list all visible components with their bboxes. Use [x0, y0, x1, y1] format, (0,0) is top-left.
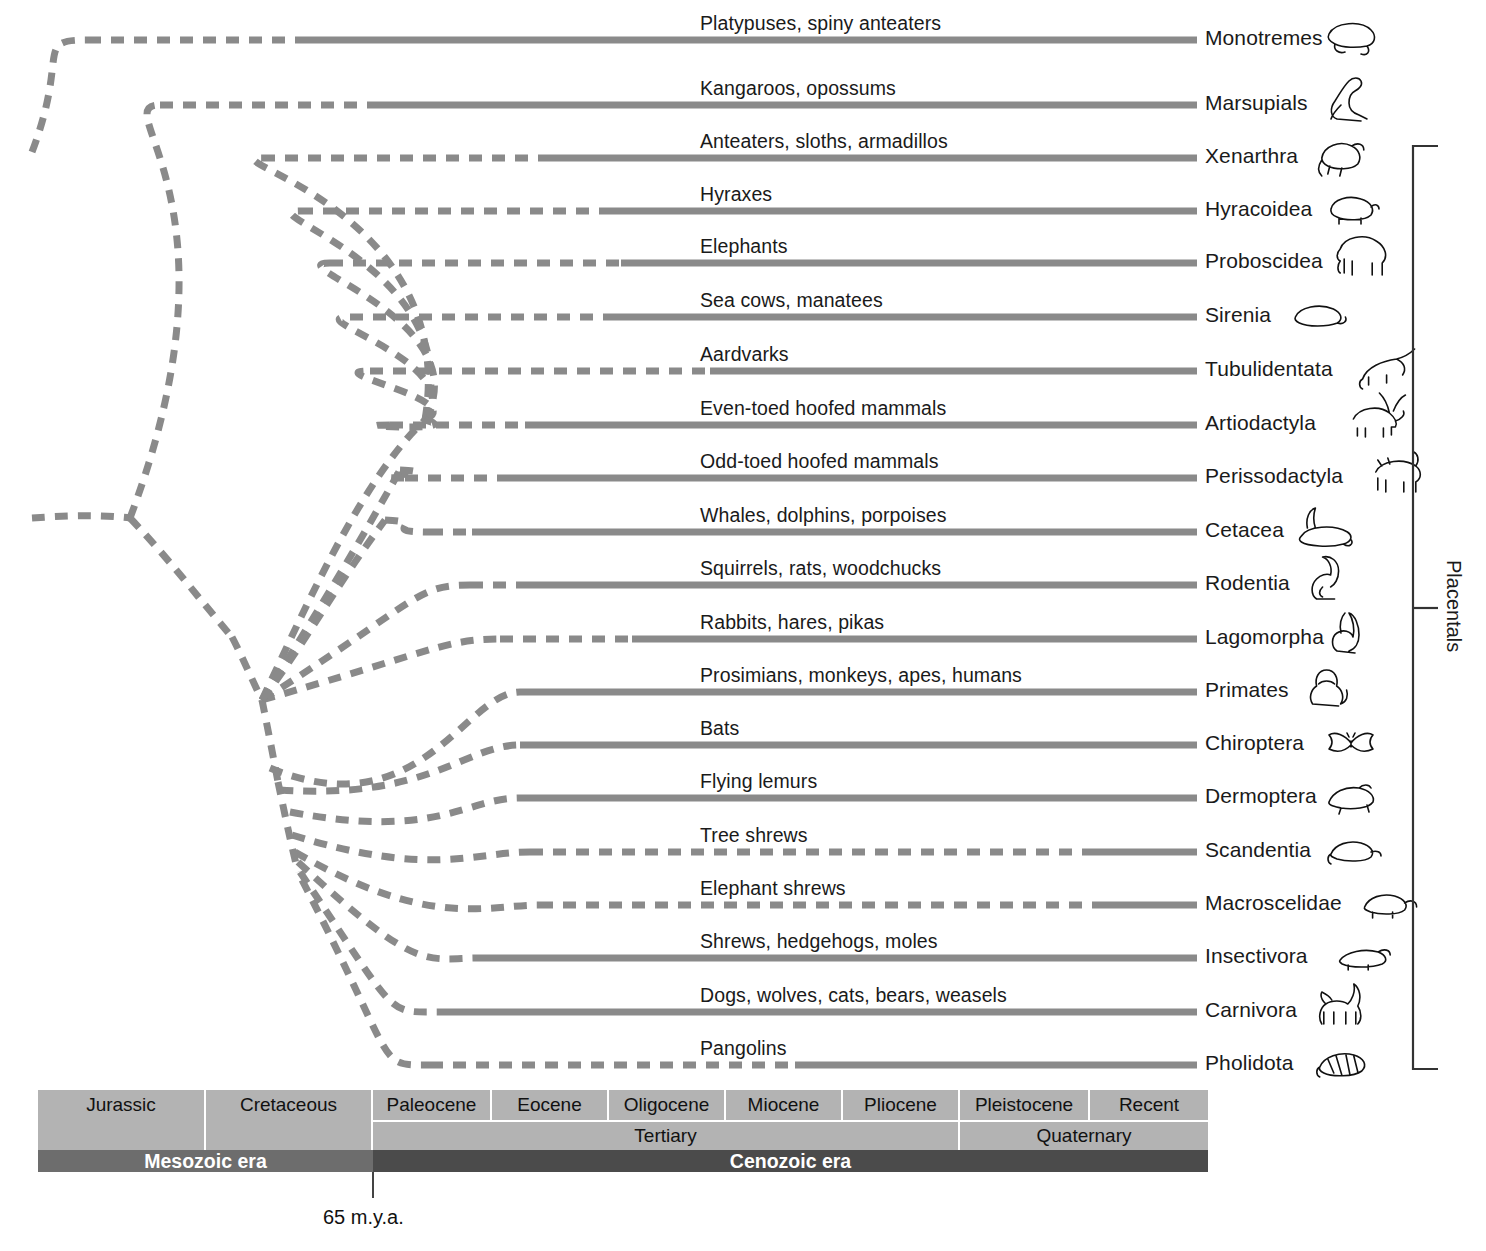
- era-cenozoic-era: Cenozoic era: [373, 1150, 1208, 1172]
- order-name-scandentia: Scandentia: [1205, 838, 1311, 862]
- epoch-miocene: Miocene: [726, 1090, 843, 1120]
- order-name-xenarthra: Xenarthra: [1205, 144, 1298, 168]
- order-name-macroscelidae: Macroscelidae: [1205, 891, 1342, 915]
- period-tertiary: Tertiary: [373, 1120, 960, 1150]
- epoch-eocene: Eocene: [492, 1090, 609, 1120]
- geologic-timescale: JurassicCretaceousPaleoceneEoceneOligoce…: [38, 1090, 1208, 1172]
- common-name-scandentia: Tree shrews: [700, 824, 808, 847]
- timescale-eras-row: Mesozoic eraCenozoic era: [38, 1150, 1208, 1172]
- common-name-dermoptera: Flying lemurs: [700, 770, 817, 793]
- period-blank: [206, 1120, 373, 1150]
- order-name-cetacea: Cetacea: [1205, 518, 1284, 542]
- period-blank: [38, 1120, 206, 1150]
- common-name-carnivora: Dogs, wolves, cats, bears, weasels: [700, 984, 1007, 1007]
- order-name-tubulidentata: Tubulidentata: [1205, 357, 1333, 381]
- common-name-macroscelidae: Elephant shrews: [700, 877, 846, 900]
- order-name-lagomorpha: Lagomorpha: [1205, 625, 1324, 649]
- placentals-label: Placentals: [1442, 560, 1465, 652]
- common-name-hyracoidea: Hyraxes: [700, 183, 772, 206]
- common-name-artiodactyla: Even-toed hoofed mammals: [700, 397, 946, 420]
- epoch-pleistocene: Pleistocene: [960, 1090, 1090, 1120]
- common-name-perissodactyla: Odd-toed hoofed mammals: [700, 450, 939, 473]
- order-name-sirenia: Sirenia: [1205, 303, 1271, 327]
- order-name-primates: Primates: [1205, 678, 1289, 702]
- order-name-artiodactyla: Artiodactyla: [1205, 411, 1316, 435]
- common-name-marsupials: Kangaroos, opossums: [700, 77, 896, 100]
- order-name-marsupials: Marsupials: [1205, 91, 1308, 115]
- common-name-proboscidea: Elephants: [700, 235, 788, 258]
- epoch-recent: Recent: [1090, 1090, 1208, 1120]
- order-name-monotremes: Monotremes: [1205, 26, 1323, 50]
- order-name-carnivora: Carnivora: [1205, 998, 1297, 1022]
- epoch-cretaceous: Cretaceous: [206, 1090, 373, 1120]
- common-name-cetacea: Whales, dolphins, porpoises: [700, 504, 947, 527]
- order-name-rodentia: Rodentia: [1205, 571, 1290, 595]
- common-name-rodentia: Squirrels, rats, woodchucks: [700, 557, 941, 580]
- common-name-chiroptera: Bats: [700, 717, 739, 740]
- order-name-dermoptera: Dermoptera: [1205, 784, 1317, 808]
- boundary-tick: [372, 1172, 374, 1198]
- common-name-lagomorpha: Rabbits, hares, pikas: [700, 611, 884, 634]
- era-mesozoic-era: Mesozoic era: [38, 1150, 373, 1172]
- timescale-epochs-row: JurassicCretaceousPaleoceneEoceneOligoce…: [38, 1090, 1208, 1120]
- common-name-primates: Prosimians, monkeys, apes, humans: [700, 664, 1022, 687]
- period-quaternary: Quaternary: [960, 1120, 1208, 1150]
- order-name-perissodactyla: Perissodactyla: [1205, 464, 1343, 488]
- epoch-jurassic: Jurassic: [38, 1090, 206, 1120]
- order-name-proboscidea: Proboscidea: [1205, 249, 1323, 273]
- mya-label: 65 m.y.a.: [323, 1206, 404, 1229]
- epoch-paleocene: Paleocene: [373, 1090, 492, 1120]
- phylogenetic-tree-diagram: Placentals Platypuses, spiny anteatersMo…: [0, 0, 1486, 1251]
- common-name-sirenia: Sea cows, manatees: [700, 289, 883, 312]
- timescale-periods-row: TertiaryQuaternary: [38, 1120, 1208, 1150]
- common-name-xenarthra: Anteaters, sloths, armadillos: [700, 130, 948, 153]
- epoch-oligocene: Oligocene: [609, 1090, 726, 1120]
- order-name-pholidota: Pholidota: [1205, 1051, 1293, 1075]
- common-name-pholidota: Pangolins: [700, 1037, 787, 1060]
- common-name-insectivora: Shrews, hedgehogs, moles: [700, 930, 938, 953]
- order-name-hyracoidea: Hyracoidea: [1205, 197, 1312, 221]
- common-name-monotremes: Platypuses, spiny anteaters: [700, 12, 941, 35]
- order-name-insectivora: Insectivora: [1205, 944, 1308, 968]
- epoch-pliocene: Pliocene: [843, 1090, 960, 1120]
- common-name-tubulidentata: Aardvarks: [700, 343, 789, 366]
- order-name-chiroptera: Chiroptera: [1205, 731, 1304, 755]
